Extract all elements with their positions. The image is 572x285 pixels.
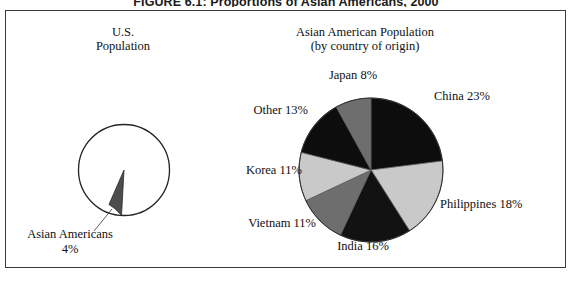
pie-label-philippines: Philippines 18% (440, 197, 522, 211)
right-chart-heading-line2: (by country of origin) (311, 39, 420, 54)
left-chart-callout-line2: 4% (62, 242, 79, 256)
left-chart-heading-line2: Population (96, 39, 150, 54)
pie-label-china: China 23% (434, 89, 490, 103)
pie-label-korea: Korea 11% (246, 163, 302, 177)
figure-root: FIGURE 6.1: Proportions of Asian America… (0, 0, 572, 285)
us-population-pie (73, 119, 175, 221)
left-chart-heading-line1: U.S. (112, 25, 134, 40)
figure-title: FIGURE 6.1: Proportions of Asian America… (0, 0, 572, 7)
pie-label-vietnam: Vietnam 11% (248, 216, 316, 230)
pie-label-japan: Japan 8% (329, 68, 377, 82)
asian-american-origin-pie (295, 94, 447, 246)
figure-frame: U.S. Population Asian Americans 4% Asian… (5, 10, 566, 268)
right-chart-heading-line1: Asian American Population (296, 25, 434, 40)
pie-label-india: India 16% (337, 239, 389, 253)
left-chart-callout-line1: Asian Americans (27, 227, 113, 241)
pie-label-other: Other 13% (254, 103, 309, 117)
pie-slice-china (371, 98, 442, 170)
